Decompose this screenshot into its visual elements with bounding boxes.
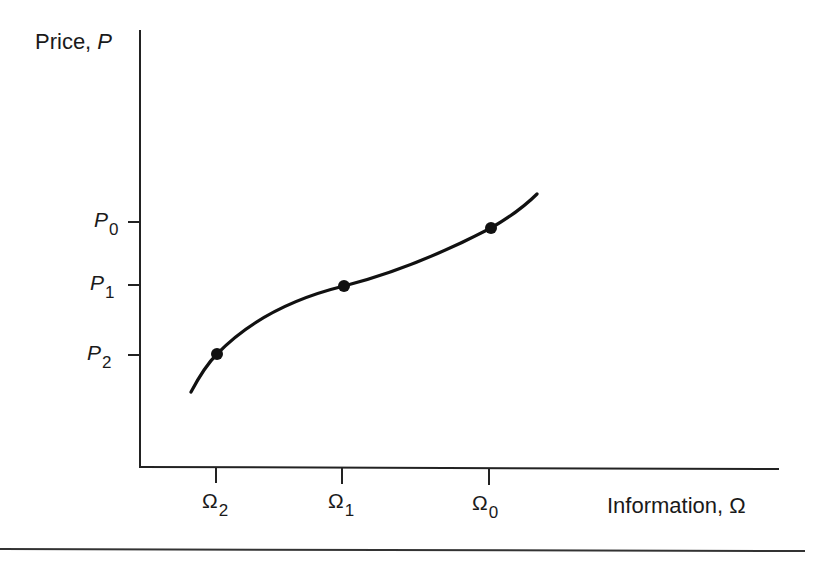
- y-tick-label-p1: P1: [90, 272, 114, 293]
- y-axis-label-symbol: P: [97, 29, 112, 54]
- x-tick-subscript: 1: [345, 501, 354, 520]
- y-tick-symbol: P: [94, 208, 108, 231]
- y-tick-symbol: P: [87, 341, 101, 364]
- y-tick-label-p0: P0: [94, 209, 118, 230]
- x-axis-label: Information, Ω: [607, 495, 746, 517]
- y-tick-label-p2: P2: [87, 342, 111, 363]
- x-tick-label-omega2: Ω2: [202, 490, 228, 511]
- price-information-curve: [191, 194, 537, 392]
- diagram-canvas: [0, 0, 820, 564]
- bottom-rule: [0, 549, 805, 551]
- x-tick-label-omega1: Ω1: [328, 490, 354, 511]
- x-tick-symbol: Ω: [202, 489, 218, 512]
- y-axis-label-text: Price,: [35, 29, 97, 54]
- x-axis-label-text: Information,: [607, 493, 729, 518]
- x-axis: [139, 467, 779, 469]
- y-tick-subscript: 0: [109, 220, 118, 239]
- x-tick-label-omega0: Ω0: [472, 492, 498, 513]
- x-tick-symbol: Ω: [472, 491, 488, 514]
- point-omega2-p2: [211, 348, 223, 360]
- y-tick-subscript: 2: [102, 353, 111, 372]
- y-tick-symbol: P: [90, 271, 104, 294]
- point-omega0-p0: [485, 222, 497, 234]
- y-axis-label: Price, P: [35, 31, 112, 53]
- x-axis-label-symbol: Ω: [729, 493, 745, 518]
- x-tick-subscript: 2: [219, 501, 228, 520]
- point-omega1-p1: [338, 280, 350, 292]
- x-tick-symbol: Ω: [328, 489, 344, 512]
- y-tick-subscript: 1: [105, 283, 114, 302]
- x-tick-subscript: 0: [489, 503, 498, 522]
